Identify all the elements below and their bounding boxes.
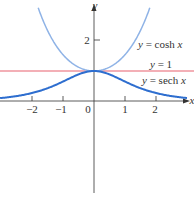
x-tick-label: −2: [26, 103, 38, 115]
x-tick-label: −1: [55, 103, 67, 115]
y-axis-label: y: [92, 0, 98, 11]
x-tick-label: 1: [122, 103, 128, 115]
sech-annotation: y = sech x: [141, 74, 186, 86]
chart-svg: −2 −1 0 1 2 2 y x y = cosh x y = 1 y = s…: [0, 0, 194, 199]
x-tick-label: 2: [152, 103, 158, 115]
y1-annotation: y = 1: [149, 58, 172, 70]
x-tick-label: 0: [85, 103, 91, 115]
x-axis-label: x: [189, 94, 194, 106]
cosh-annotation: y = cosh x: [137, 38, 183, 50]
y-tick-label: 2: [84, 34, 90, 46]
